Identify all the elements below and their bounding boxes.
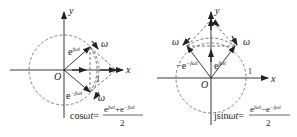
sine-phasor-diagram: y x O 1 ejωt −e−jωt ω ω jsinωt= ejωt−e−j… xyxy=(157,5,290,128)
cos-formula: cosωt= ejωt+e−jωt 2 xyxy=(70,104,143,129)
formula-denominator: 2 xyxy=(266,118,271,128)
origin-label: O xyxy=(54,71,61,82)
x-axis-label: x xyxy=(125,64,131,75)
dash-2 xyxy=(90,70,116,92)
omega-bottom-label: ω xyxy=(98,92,105,103)
e-pos-label: ejωt xyxy=(68,46,80,57)
dash-top-left xyxy=(187,20,211,46)
unit-label: 1 xyxy=(248,67,252,76)
omega-top-label: ω xyxy=(101,38,108,49)
dash-1 xyxy=(90,47,116,70)
formula-numerator: ejωt+e−jωt xyxy=(104,104,135,115)
y-axis-label: y xyxy=(68,5,74,16)
omega-right-label: ω xyxy=(243,36,250,47)
e-neg-label: e−jωt xyxy=(66,90,82,101)
omega-arrow-right xyxy=(232,36,237,45)
y-axis-label: y xyxy=(214,5,220,16)
formula-lhs: cosωt= xyxy=(70,110,99,121)
origin-label: O xyxy=(201,79,208,90)
dash-top-right xyxy=(211,20,235,46)
formula-lhs: jsinωt= xyxy=(213,110,244,121)
cosine-phasor-diagram: y x O 1 ejωt e−jωt ω ω cosωt= ejωt+e−jωt… xyxy=(10,5,143,128)
formula-numerator: ejωt−e−jωt xyxy=(250,104,281,115)
omega-left-label: ω xyxy=(172,36,179,47)
omega-arrow-top xyxy=(92,41,98,49)
formula-denominator: 2 xyxy=(120,118,125,128)
phasor-diagrams: y x O 1 ejωt e−jωt ω ω cosωt= ejωt+e−jωt… xyxy=(0,0,297,137)
e-pos-label: ejωt xyxy=(214,60,226,71)
vector-e-neg xyxy=(64,70,90,92)
e-neg-label: −e−jωt xyxy=(176,60,198,71)
dash-arc xyxy=(90,47,97,92)
x-axis-label: x xyxy=(270,73,276,84)
sin-formula: jsinωt= ejωt−e−jωt 2 xyxy=(213,104,290,129)
unit-label: 1 xyxy=(96,75,100,84)
